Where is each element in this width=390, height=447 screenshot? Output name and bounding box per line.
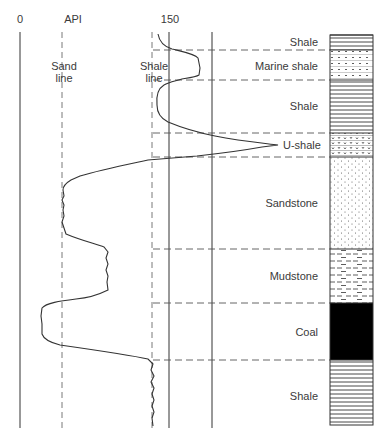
litho-mudstone <box>330 249 373 303</box>
shale-line-label-2: line <box>145 72 162 84</box>
litho-shale <box>330 360 373 425</box>
layer-label-shale-mid: Shale <box>290 100 318 112</box>
layer-label-sandstone: Sandstone <box>265 197 318 209</box>
sand-line-label-1: Sand <box>51 60 77 72</box>
axis-max-label: 150 <box>161 13 179 25</box>
shale-line-label-1: Shale <box>140 60 168 72</box>
litho-shale <box>330 35 373 50</box>
litho-coal <box>330 303 373 360</box>
layer-label-shale-bottom: Shale <box>290 390 318 402</box>
sand-line-label-2: line <box>55 72 72 84</box>
axis-unit-label: API <box>64 13 82 25</box>
layer-label-u-shale: U-shale <box>283 139 321 151</box>
lithology-column <box>330 35 373 425</box>
layer-label-shale-top: Shale <box>290 36 318 48</box>
litho-marine-shale <box>330 50 373 80</box>
axis-min-label: 0 <box>17 13 23 25</box>
layer-label-marine-shale: Marine shale <box>255 60 318 72</box>
litho-sandstone <box>330 157 373 249</box>
layer-label-coal: Coal <box>295 326 318 338</box>
litho-shale <box>330 80 373 133</box>
gamma-ray-log-diagram: 0 API 150 Sand line Shale line Shale Mar… <box>0 0 390 447</box>
gamma-ray-curve <box>41 34 278 426</box>
litho-u-shale <box>330 133 373 157</box>
layer-label-mudstone: Mudstone <box>270 270 318 282</box>
